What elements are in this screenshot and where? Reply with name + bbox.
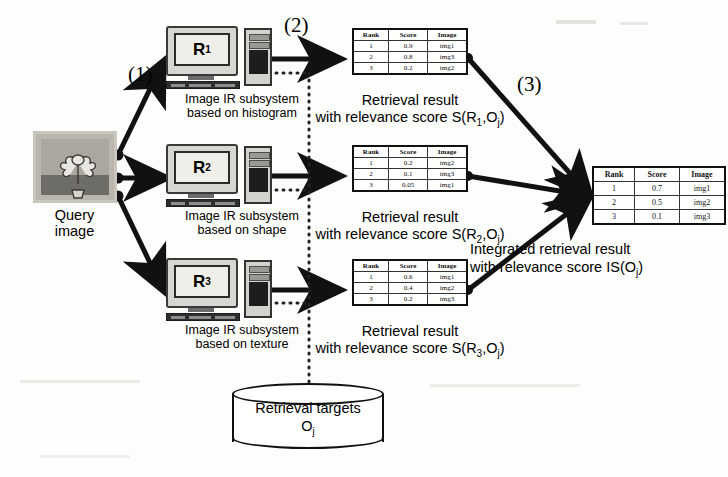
- col-header-score: Score: [389, 260, 428, 272]
- caption-mid: ,O: [482, 340, 497, 356]
- db-label-sub: j: [313, 426, 315, 437]
- subsystem-computer-R2[interactable]: R2: [166, 144, 278, 206]
- result-table-R2: Rank Score Image 1 0.2 img2 2 0.1 img3 3…: [352, 145, 468, 192]
- cell-image: img2: [428, 283, 468, 294]
- monitor-screen-R1: R1: [174, 33, 230, 66]
- table-header-row: Rank Score Image: [353, 260, 467, 272]
- diagram-canvas: Query image (1) (2) (3) R1 Image IR subs…: [0, 0, 728, 477]
- table-row: 1 0.9 img1: [353, 41, 467, 52]
- cell-rank: 1: [353, 272, 389, 283]
- monitor-screen-R2: R2: [174, 151, 230, 184]
- screen-label-R1: R: [193, 40, 205, 60]
- table-row: 3 0.2 img2: [353, 63, 467, 75]
- cell-rank: 2: [353, 52, 389, 63]
- screen-label-R2: R: [193, 158, 205, 178]
- query-label-line1: Query: [12, 207, 137, 223]
- screen-label-R3: R: [193, 272, 205, 292]
- db-label: Retrieval targets Oj: [232, 399, 384, 441]
- retrieval-targets-database: Retrieval targets Oj: [232, 383, 384, 451]
- scan-speck: [556, 20, 596, 24]
- query-image-label: Query image: [12, 207, 137, 239]
- integrated-caption-line2: with relevance score IS(Oj): [470, 258, 720, 282]
- col-header-rank: Rank: [353, 29, 389, 41]
- table-row: 2 0.1 img3: [353, 169, 467, 180]
- monitor-stand-R2: [188, 194, 214, 198]
- subsystem-computer-R1[interactable]: R1: [166, 26, 278, 88]
- monitor-stand-R1: [188, 76, 214, 80]
- cell-image: img1: [680, 182, 726, 196]
- cell-image: img1: [428, 41, 468, 52]
- col-header-score: Score: [635, 167, 680, 182]
- cell-rank: 3: [353, 180, 389, 192]
- scan-speck: [40, 455, 130, 458]
- col-header-rank: Rank: [353, 260, 389, 272]
- cell-rank: 2: [353, 169, 389, 180]
- monitor-R2: R2: [166, 144, 238, 194]
- table-row: 1 0.2 img2: [353, 158, 467, 169]
- keyboard-R3: [166, 313, 240, 321]
- col-header-score: Score: [389, 146, 428, 158]
- cell-rank: 2: [593, 196, 635, 210]
- keyboard-R2: [166, 199, 240, 207]
- monitor-screen-R3: R3: [174, 265, 230, 298]
- col-header-image: Image: [428, 29, 468, 41]
- cell-score: 0.1: [389, 169, 428, 180]
- col-header-image: Image: [428, 260, 468, 272]
- result-caption-R1-line1: Retrieval result: [285, 92, 535, 109]
- cell-score: 0.9: [389, 41, 428, 52]
- table-row: 2 0.4 img2: [353, 283, 467, 294]
- cell-score: 0.8: [389, 52, 428, 63]
- result-table-R3: Rank Score Image 1 0.6 img1 2 0.4 img2 3…: [352, 259, 468, 306]
- cell-image: img2: [680, 196, 726, 210]
- keyboard-R1: [166, 81, 240, 89]
- step-label-1: (1): [128, 62, 153, 87]
- caption-pre: with relevance score S(R: [315, 340, 476, 356]
- cell-image: img3: [680, 210, 726, 225]
- scan-speck: [20, 380, 140, 383]
- table-row: 1 0.6 img1: [353, 272, 467, 283]
- tower-R1: [244, 28, 272, 86]
- cell-score: 0.1: [635, 210, 680, 225]
- caption-pre: with relevance score IS(O: [470, 259, 636, 275]
- cell-rank: 3: [353, 63, 389, 75]
- subsystem-computer-R3[interactable]: R3: [166, 258, 278, 320]
- db-label-line2: Oj: [232, 417, 384, 441]
- integrated-result-table: Rank Score Image 1 0.7 img1 2 0.5 img2 3…: [592, 166, 726, 225]
- result-caption-R2-line1: Retrieval result: [285, 209, 535, 226]
- cell-score: 0.4: [389, 283, 428, 294]
- result-caption-R3: Retrieval result with relevance score S(…: [285, 323, 535, 362]
- tower-R2: [244, 146, 272, 204]
- caption-pre: with relevance score S(R: [315, 226, 476, 242]
- cell-score: 0.2: [389, 63, 428, 75]
- flower-pot-icon: [36, 134, 120, 206]
- db-label-line1: Retrieval targets: [232, 399, 384, 417]
- screen-sub-R3: 3: [205, 276, 211, 287]
- tower-R3: [244, 260, 272, 318]
- col-header-image: Image: [428, 146, 468, 158]
- cell-rank: 3: [353, 294, 389, 306]
- cell-image: img3: [428, 169, 468, 180]
- result-caption-R1: Retrieval result with relevance score S(…: [285, 92, 535, 131]
- monitor-R3: R3: [166, 258, 238, 308]
- step-label-2: (2): [284, 13, 309, 38]
- caption-tail: ): [500, 109, 505, 125]
- caption-tail: ): [500, 340, 505, 356]
- col-header-rank: Rank: [353, 146, 389, 158]
- table-row: 1 0.7 img1: [593, 182, 725, 196]
- col-header-image: Image: [680, 167, 726, 182]
- cell-score: 0.5: [635, 196, 680, 210]
- caption-tail: ): [638, 259, 643, 275]
- caption-mid: ,O: [482, 109, 497, 125]
- result-table-R1: Rank Score Image 1 0.9 img1 2 0.8 img3 3…: [352, 28, 468, 75]
- cell-image: img1: [428, 180, 468, 192]
- screen-sub-R1: 1: [205, 44, 211, 55]
- table-row: 3 0.1 img3: [593, 210, 725, 225]
- table-header-row: Rank Score Image: [353, 146, 467, 158]
- cell-score: 0.6: [389, 272, 428, 283]
- cell-rank: 1: [353, 41, 389, 52]
- caption-pre: with relevance score S(R: [315, 109, 476, 125]
- table-header-row: Rank Score Image: [353, 29, 467, 41]
- cell-rank: 1: [593, 182, 635, 196]
- db-label-O: O: [301, 418, 312, 434]
- cell-image: img2: [428, 158, 468, 169]
